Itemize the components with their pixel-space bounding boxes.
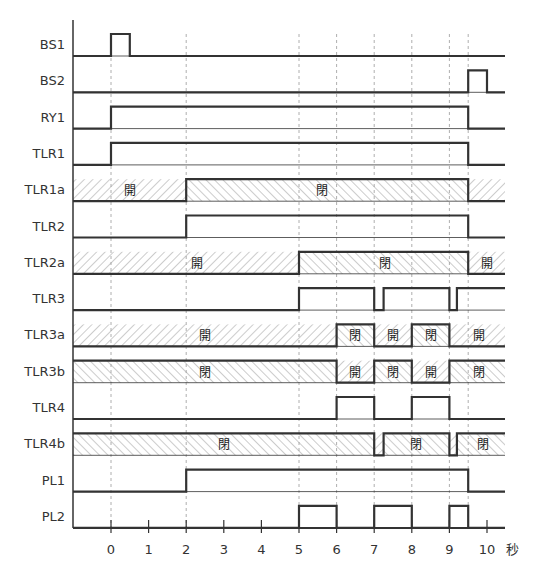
x-tick-label: 2 [182, 542, 190, 557]
signal-label: PL2 [42, 509, 65, 524]
waveform [73, 470, 505, 492]
x-tick-label: 8 [408, 542, 416, 557]
signal-row-tlr1a: TLR1a開閉 [24, 179, 505, 201]
contact-state-label: 開 [481, 257, 493, 271]
time-axis: 012345678910秒 [73, 20, 519, 557]
signal-label: TLR2a [24, 255, 65, 270]
signal-label: TLR4b [23, 436, 65, 451]
signal-row-tlr4b: TLR4b閉閉閉 [23, 433, 505, 455]
signal-label: PL1 [42, 473, 65, 488]
signal-label: BS1 [40, 37, 65, 52]
contact-state-label: 閉 [387, 366, 399, 380]
open-region [73, 252, 299, 274]
contact-state-label: 閉 [425, 329, 437, 343]
x-tick-label: 6 [332, 542, 340, 557]
contact-state-label: 閉 [379, 257, 391, 271]
contact-state-label: 閉 [410, 438, 422, 452]
waveform [73, 216, 505, 238]
contact-state-label: 閉 [218, 438, 230, 452]
signal-label: TLR2 [32, 219, 66, 234]
signal-row-tlr3: TLR3 [32, 288, 506, 310]
waveform [73, 506, 505, 528]
waveform [73, 143, 505, 165]
contact-state-label: 開 [199, 329, 211, 343]
waveform [73, 70, 505, 92]
contact-state-label: 閉 [316, 184, 328, 198]
signal-row-bs2: BS2 [40, 70, 505, 92]
signal-label: TLR1a [24, 182, 65, 197]
signal-label: TLR3a [24, 327, 65, 342]
waveform [73, 107, 505, 129]
x-tick-label: 3 [220, 542, 228, 557]
signal-row-tlr3a: TLR3a開閉開閉開 [24, 324, 505, 346]
signal-rows: BS1BS2RY1TLR1TLR1a開閉TLR2TLR2a開閉開TLR3TLR3… [23, 34, 505, 528]
contact-state-label: 閉 [477, 438, 489, 452]
contact-state-label: 閉 [473, 366, 485, 380]
open-region [468, 179, 505, 201]
x-tick-label: 9 [445, 542, 453, 557]
x-tick-label: 5 [295, 542, 303, 557]
x-tick-label: 7 [370, 542, 378, 557]
signal-row-ry1: RY1 [41, 107, 505, 129]
contact-state-label: 開 [124, 184, 136, 198]
x-tick-label: 4 [257, 542, 265, 557]
waveform [73, 397, 505, 419]
x-tick-label: 0 [107, 542, 115, 557]
signal-row-tlr2a: TLR2a開閉開 [24, 252, 505, 274]
contact-state-label: 閉 [199, 366, 211, 380]
signal-row-tlr2: TLR2 [32, 216, 506, 238]
contact-state-label: 開 [191, 257, 203, 271]
x-axis-unit-label: 秒 [506, 542, 519, 557]
open-region [449, 433, 457, 455]
signal-label: BS2 [40, 73, 65, 88]
signal-row-tlr3b: TLR3b閉開閉開閉 [23, 361, 505, 383]
signal-row-tlr4: TLR4 [32, 397, 506, 419]
timing-diagram: BS1BS2RY1TLR1TLR1a開閉TLR2TLR2a開閉開TLR3TLR3… [0, 0, 540, 577]
waveform [73, 34, 505, 56]
contact-state-label: 閉 [349, 329, 361, 343]
contact-state-label: 開 [387, 329, 399, 343]
signal-row-bs1: BS1 [40, 34, 505, 56]
signal-label: TLR4 [32, 400, 66, 415]
signal-label: RY1 [41, 110, 65, 125]
waveform [73, 288, 505, 310]
contact-state-label: 開 [425, 366, 437, 380]
x-tick-label: 1 [144, 542, 152, 557]
x-tick-label: 10 [479, 542, 496, 557]
open-region [374, 433, 383, 455]
signal-label: TLR1 [32, 146, 66, 161]
signal-label: TLR3 [32, 291, 66, 306]
signal-row-tlr1: TLR1 [32, 143, 506, 165]
contact-state-label: 開 [473, 329, 485, 343]
contact-state-label: 開 [349, 366, 361, 380]
signal-label: TLR3b [23, 364, 65, 379]
